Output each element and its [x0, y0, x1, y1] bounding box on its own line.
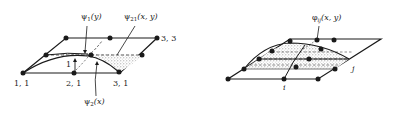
left-node-3-3	[155, 36, 160, 41]
right-node	[270, 49, 275, 54]
label-psi2: ψ2(x)	[84, 97, 105, 107]
right-node	[333, 67, 338, 72]
left-node-2-1	[72, 71, 77, 76]
index-label-i: i	[283, 83, 286, 92]
left-node-1-2	[44, 53, 49, 58]
right-node	[288, 39, 293, 44]
right-node	[226, 77, 231, 82]
psi2-leader	[95, 63, 97, 96]
node-label-3-3: 3, 3	[161, 34, 176, 43]
left-node-3-1	[117, 70, 122, 75]
label-phi-ij: φij(x, y)	[312, 13, 341, 24]
left-node-1-3	[64, 36, 69, 41]
right-node	[294, 65, 299, 70]
right-node	[257, 57, 262, 62]
right-node	[319, 47, 324, 52]
right-node	[282, 77, 287, 82]
psi21-leader	[117, 26, 135, 55]
finite-element-basis-diagram: 1 1, 1 2, 1 3, 1 3, 3 ψ1(y) ψ21(x, y) ψ2…	[0, 0, 394, 114]
psi1-leader	[85, 26, 87, 52]
right-node	[316, 77, 321, 82]
left-shape-surface	[46, 54, 142, 72]
label-psi1: ψ1(y)	[81, 12, 102, 22]
right-node	[242, 67, 247, 72]
right-element-diagram: φij(x, y) i j	[226, 13, 382, 92]
node-label-2-1: 2, 1	[66, 79, 81, 88]
psi2-leader-arrowhead	[95, 61, 99, 65]
left-node-3-2	[140, 53, 145, 58]
left-height-arrowhead	[73, 58, 77, 62]
left-element-diagram: 1 1, 1 2, 1 3, 1 3, 3 ψ1(y) ψ21(x, y) ψ2…	[14, 12, 176, 107]
node-label-1-1: 1, 1	[14, 79, 29, 88]
left-node-1-1	[21, 71, 26, 76]
right-node-ij	[307, 57, 312, 62]
index-label-j: j	[350, 64, 355, 73]
left-dashed-curve-2	[76, 57, 88, 70]
left-height-label: 1	[66, 60, 71, 69]
right-node	[332, 38, 337, 43]
node-label-3-1: 3, 1	[113, 79, 128, 88]
label-psi21: ψ21(x, y)	[124, 12, 158, 22]
left-node-2-2	[89, 53, 94, 58]
left-node-2-3	[108, 36, 113, 41]
